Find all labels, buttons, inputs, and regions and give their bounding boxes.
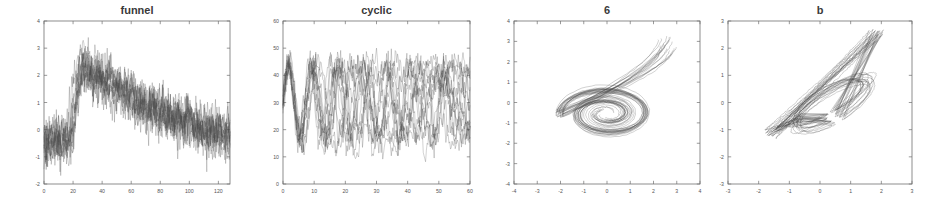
cyclic-plot: 01020304050600102030405060cyclic bbox=[240, 0, 480, 211]
y-tick-label: -4 bbox=[505, 181, 510, 187]
x-tick-label: 0 bbox=[819, 188, 822, 194]
x-tick-label: 50 bbox=[436, 188, 442, 194]
y-tick-label: 1 bbox=[721, 72, 724, 78]
panel-title: 6 bbox=[604, 4, 610, 16]
x-tick-label: -1 bbox=[581, 188, 586, 194]
series-line bbox=[562, 37, 670, 133]
chart-panel-funnel: 020406080100120-2-101234funnel bbox=[0, 0, 240, 211]
y-tick-label: 40 bbox=[273, 72, 279, 78]
x-tick-label: 0 bbox=[282, 188, 285, 194]
x-tick-label: 1 bbox=[629, 188, 632, 194]
x-tick-label: 30 bbox=[374, 188, 380, 194]
x-tick-label: 3 bbox=[675, 188, 678, 194]
panel-title: b bbox=[817, 4, 824, 16]
chart-panel-b: -3-2-10123-3-2-10123b bbox=[685, 0, 951, 211]
y-tick-label: -2 bbox=[35, 181, 40, 187]
x-tick-label: 60 bbox=[128, 188, 134, 194]
x-tick-label: 40 bbox=[99, 188, 105, 194]
series-group bbox=[44, 37, 230, 175]
x-tick-label: 10 bbox=[311, 188, 317, 194]
x-tick-label: 20 bbox=[70, 188, 76, 194]
y-tick-label: 2 bbox=[37, 72, 40, 78]
y-tick-label: -2 bbox=[719, 154, 724, 160]
x-tick-label: -3 bbox=[726, 188, 731, 194]
x-tick-label: 2 bbox=[880, 188, 883, 194]
x-tick-label: 3 bbox=[911, 188, 914, 194]
chart-panel-6: -4-3-2-101234-4-3-2-1012346 bbox=[471, 0, 711, 211]
x-tick-label: -1 bbox=[787, 188, 792, 194]
y-tick-label: 3 bbox=[721, 18, 724, 24]
panel-6-plot: -4-3-2-101234-4-3-2-1012346 bbox=[471, 0, 711, 211]
series-group bbox=[765, 29, 884, 139]
y-tick-label: 4 bbox=[37, 18, 40, 24]
y-tick-label: 4 bbox=[507, 18, 510, 24]
x-tick-label: 2 bbox=[652, 188, 655, 194]
y-tick-label: 3 bbox=[507, 38, 510, 44]
y-tick-label: 2 bbox=[507, 59, 510, 65]
x-tick-label: 1 bbox=[849, 188, 852, 194]
y-tick-label: -3 bbox=[505, 161, 510, 167]
y-tick-label: -1 bbox=[719, 127, 724, 133]
x-tick-label: -2 bbox=[558, 188, 563, 194]
series-line bbox=[556, 37, 667, 133]
y-tick-label: 30 bbox=[273, 100, 279, 106]
y-tick-label: 50 bbox=[273, 45, 279, 51]
y-tick-label: 2 bbox=[721, 45, 724, 51]
panel-title: funnel bbox=[121, 4, 154, 16]
y-tick-label: -3 bbox=[719, 181, 724, 187]
y-tick-label: 10 bbox=[273, 154, 279, 160]
series-line bbox=[767, 31, 878, 135]
y-tick-label: 0 bbox=[37, 127, 40, 133]
chart-panel-cyclic: 01020304050600102030405060cyclic bbox=[240, 0, 480, 211]
y-tick-label: 0 bbox=[276, 181, 279, 187]
x-tick-label: 20 bbox=[342, 188, 348, 194]
panel-title: cyclic bbox=[361, 4, 392, 16]
y-tick-label: 3 bbox=[37, 45, 40, 51]
funnel-plot: 020406080100120-2-101234funnel bbox=[0, 0, 240, 211]
panel-b-plot: -3-2-10123-3-2-10123b bbox=[685, 0, 951, 211]
y-tick-label: 60 bbox=[273, 18, 279, 24]
x-tick-label: 40 bbox=[405, 188, 411, 194]
x-tick-label: 100 bbox=[185, 188, 194, 194]
y-tick-label: -2 bbox=[505, 140, 510, 146]
y-tick-label: 1 bbox=[507, 79, 510, 85]
y-tick-label: -1 bbox=[35, 154, 40, 160]
x-tick-label: 0 bbox=[43, 188, 46, 194]
y-tick-label: 20 bbox=[273, 127, 279, 133]
x-tick-label: -4 bbox=[512, 188, 517, 194]
axis-frame bbox=[728, 21, 912, 184]
series-group bbox=[283, 48, 470, 162]
figure-panel-row: 020406080100120-2-101234funnel 010203040… bbox=[0, 0, 951, 211]
series-line bbox=[766, 41, 878, 134]
x-tick-label: 120 bbox=[214, 188, 223, 194]
y-tick-label: 1 bbox=[37, 100, 40, 106]
x-tick-label: 0 bbox=[606, 188, 609, 194]
x-tick-label: -2 bbox=[756, 188, 761, 194]
x-tick-label: 80 bbox=[157, 188, 163, 194]
y-tick-label: 0 bbox=[721, 100, 724, 106]
x-tick-label: -3 bbox=[535, 188, 540, 194]
y-tick-label: -1 bbox=[505, 120, 510, 126]
series-group bbox=[556, 37, 676, 138]
y-tick-label: 0 bbox=[507, 100, 510, 106]
